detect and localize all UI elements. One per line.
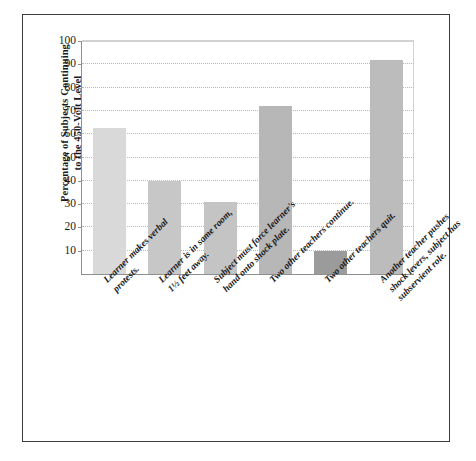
y-tick-label-60: 60 (65, 128, 77, 140)
y-tick-label-80: 80 (65, 82, 77, 94)
y-tick-label-70: 70 (65, 105, 77, 117)
y-tick-label-100: 100 (59, 35, 76, 47)
y-tick-label-40: 40 (65, 175, 77, 187)
y-tick-label-20: 20 (65, 222, 77, 234)
bar-slot (82, 41, 137, 274)
y-tick-label-10: 10 (65, 245, 77, 257)
x-axis-category-labels: Learner makes verbal protests.Learner is… (81, 277, 421, 427)
y-tick-label-30: 30 (65, 198, 77, 210)
y-tick-label-50: 50 (65, 152, 77, 164)
bar (93, 128, 126, 274)
y-tick-label-90: 90 (65, 59, 77, 71)
figure-frame: Percentage of Subjects Continuing to the… (22, 14, 450, 442)
